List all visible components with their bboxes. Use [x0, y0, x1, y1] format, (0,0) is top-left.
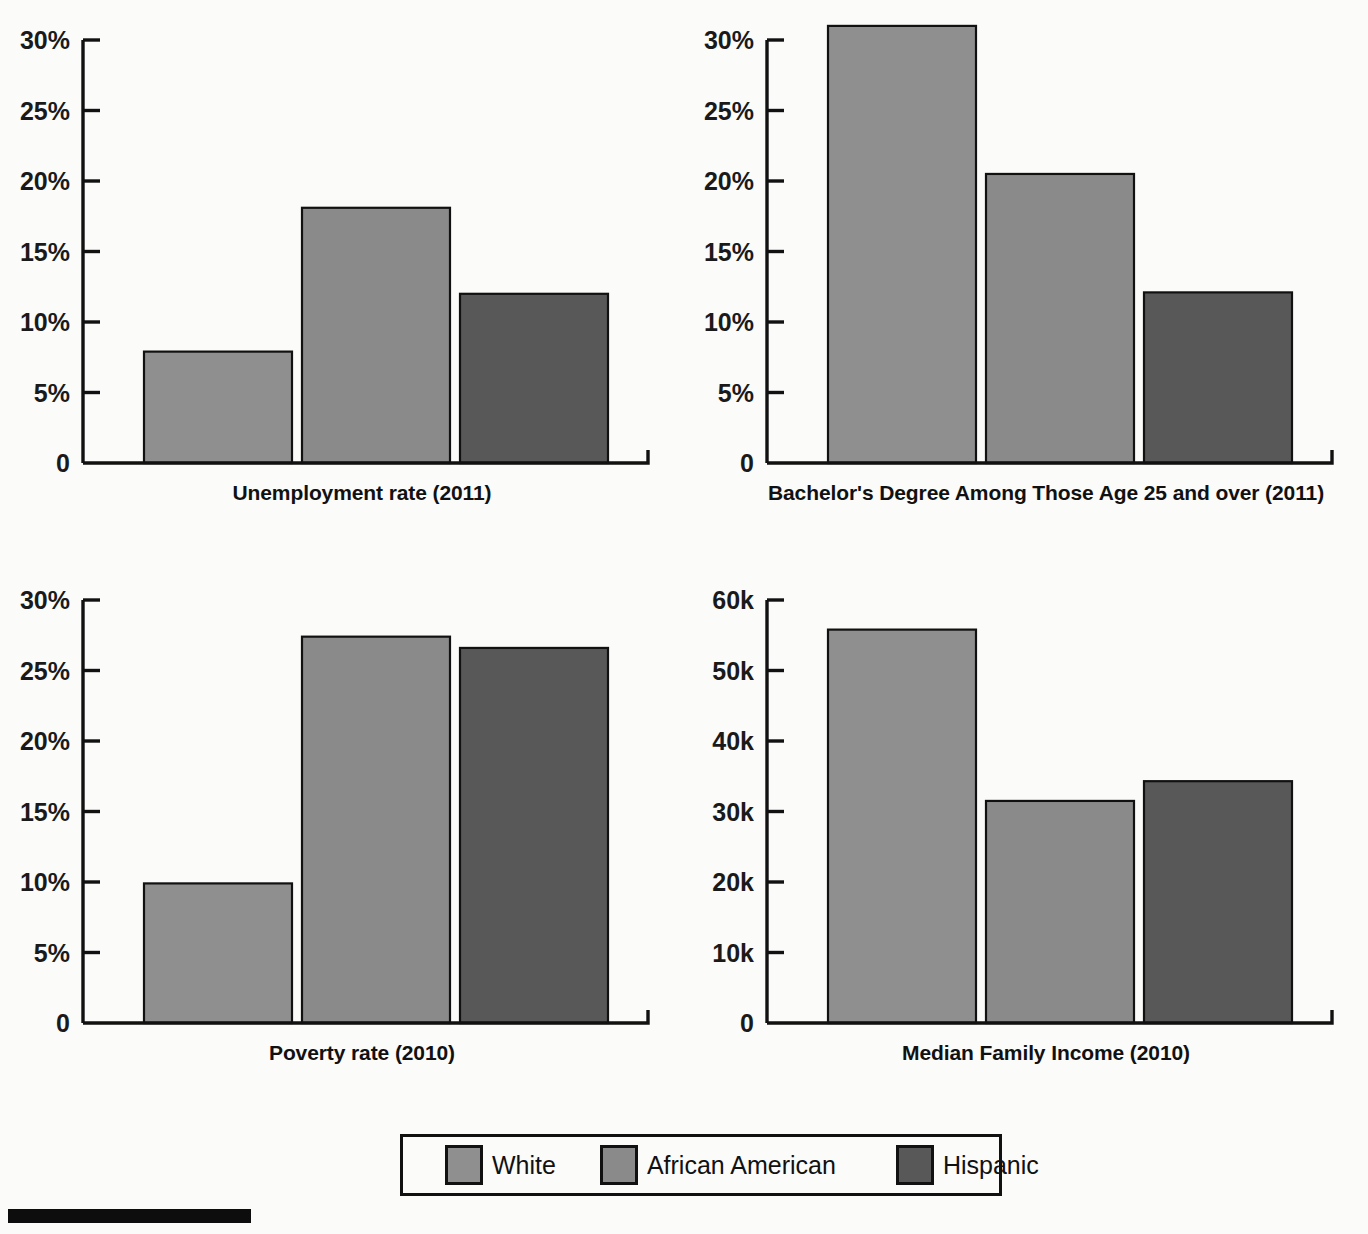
legend-label-white: White [492, 1151, 556, 1180]
legend-swatch-african-american [600, 1145, 638, 1185]
y-tick-label: 0 [56, 1009, 70, 1037]
y-tick-label: 0 [56, 449, 70, 477]
y-tick-label: 50k [712, 657, 754, 685]
y-tick-label: 10% [704, 308, 754, 336]
y-tick-label: 20% [20, 727, 70, 755]
chart-legend: White African American Hispanic [400, 1134, 1002, 1196]
y-tick-label: 25% [20, 657, 70, 685]
chart-income: 010k20k30k40k50k60kMedian Family Income … [684, 560, 1368, 1080]
bar-poverty-hispanic [460, 648, 608, 1023]
y-tick-label: 20% [20, 167, 70, 195]
bar-bachelors-white [828, 26, 976, 463]
bar-income-hispanic [1144, 781, 1292, 1023]
chart-bachelors: 05%10%15%20%25%30%Bachelor's Degree Amon… [684, 0, 1368, 520]
chart-title-bachelors: Bachelor's Degree Among Those Age 25 and… [768, 481, 1324, 504]
y-tick-label: 30% [20, 586, 70, 614]
bar-unemployment-white [144, 352, 292, 463]
legend-label-hispanic: Hispanic [943, 1151, 1039, 1180]
legend-label-african-american: African American [647, 1151, 836, 1180]
y-tick-label: 0 [740, 1009, 754, 1037]
bar-poverty-african-american [302, 637, 450, 1023]
y-tick-label: 20k [712, 868, 754, 896]
bar-poverty-white [144, 883, 292, 1023]
y-tick-label: 30% [704, 26, 754, 54]
y-tick-label: 15% [20, 798, 70, 826]
legend-swatch-hispanic [896, 1145, 934, 1185]
chart-panel-income: 010k20k30k40k50k60kMedian Family Income … [684, 560, 1368, 1080]
chart-panel-poverty: 05%10%15%20%25%30%Poverty rate (2010) [0, 560, 684, 1080]
figure-page: 05%10%15%20%25%30%Unemployment rate (201… [0, 0, 1368, 1234]
bar-income-white [828, 630, 976, 1023]
legend-item-hispanic: Hispanic [896, 1137, 1039, 1193]
y-tick-label: 30% [20, 26, 70, 54]
y-tick-label: 10% [20, 308, 70, 336]
bar-bachelors-african-american [986, 174, 1134, 463]
bar-bachelors-hispanic [1144, 292, 1292, 463]
legend-item-white: White [445, 1137, 556, 1193]
legend-swatch-white [445, 1145, 483, 1185]
chart-title-poverty: Poverty rate (2010) [269, 1041, 455, 1064]
y-tick-label: 10% [20, 868, 70, 896]
y-tick-label: 5% [718, 379, 754, 407]
chart-unemployment: 05%10%15%20%25%30%Unemployment rate (201… [0, 0, 684, 520]
chart-panel-bachelors: 05%10%15%20%25%30%Bachelor's Degree Amon… [684, 0, 1368, 520]
y-tick-label: 60k [712, 586, 754, 614]
y-tick-label: 15% [20, 238, 70, 266]
chart-poverty: 05%10%15%20%25%30%Poverty rate (2010) [0, 560, 684, 1080]
legend-item-african-american: African American [600, 1137, 836, 1193]
y-tick-label: 5% [34, 379, 70, 407]
y-tick-label: 15% [704, 238, 754, 266]
bar-unemployment-hispanic [460, 294, 608, 463]
y-tick-label: 5% [34, 939, 70, 967]
y-tick-label: 25% [20, 97, 70, 125]
y-tick-label: 20% [704, 167, 754, 195]
y-tick-label: 10k [712, 939, 754, 967]
y-tick-label: 40k [712, 727, 754, 755]
chart-panel-unemployment: 05%10%15%20%25%30%Unemployment rate (201… [0, 0, 684, 520]
y-tick-label: 25% [704, 97, 754, 125]
y-tick-label: 30k [712, 798, 754, 826]
y-tick-label: 0 [740, 449, 754, 477]
chart-title-unemployment: Unemployment rate (2011) [232, 481, 491, 504]
bar-unemployment-african-american [302, 208, 450, 463]
bar-income-african-american [986, 801, 1134, 1023]
chart-title-income: Median Family Income (2010) [902, 1041, 1190, 1064]
footer-rule [8, 1209, 251, 1223]
